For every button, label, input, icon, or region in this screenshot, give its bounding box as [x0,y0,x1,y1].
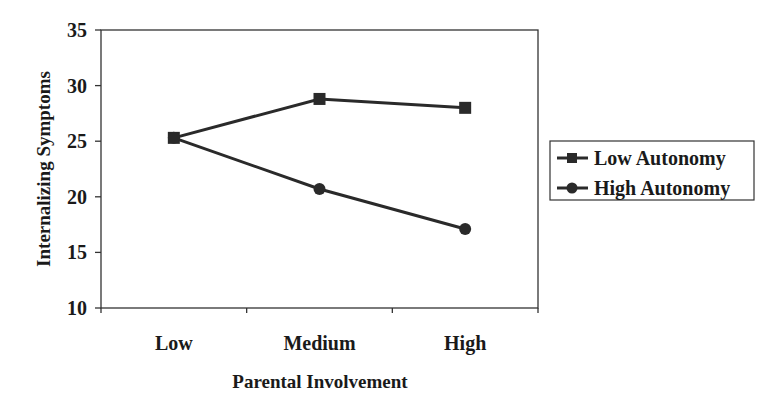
y-tick-label: 10 [67,297,87,319]
y-axis: 101520253035 [67,19,101,319]
circle-marker-icon [567,183,578,194]
circle-marker-icon [459,223,471,235]
circle-marker-icon [168,132,180,144]
x-tick-label: Medium [283,332,356,354]
y-tick-label: 15 [67,241,87,263]
legend-label: High Autonomy [594,177,730,200]
y-tick-label: 20 [67,186,87,208]
square-marker-icon [567,153,577,163]
legend-label: Low Autonomy [594,147,726,170]
square-marker-icon [459,102,471,114]
series-layer [168,93,471,235]
y-tick-label: 25 [67,130,87,152]
x-tick-label: High [444,332,486,355]
y-tick-label: 30 [67,75,87,97]
y-tick-label: 35 [67,19,87,41]
y-axis-title: Internalizing Symptoms [33,71,54,267]
square-marker-icon [314,93,326,105]
x-tick-label: Low [155,332,193,354]
line-chart: 101520253035 LowMediumHigh Internalizing… [0,0,781,410]
plot-area [101,30,538,308]
x-axis: LowMediumHigh [101,308,538,355]
legend: Low Autonomy High Autonomy [550,141,754,200]
circle-marker-icon [314,183,326,195]
x-axis-title: Parental Involvement [232,371,408,392]
